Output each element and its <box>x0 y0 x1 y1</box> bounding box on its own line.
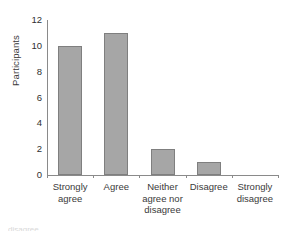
clipped-caption: disagree <box>8 225 276 231</box>
x-axis-line <box>47 175 278 176</box>
bar[interactable] <box>58 46 82 175</box>
x-tick-mark <box>278 175 279 178</box>
y-tick-label: 10 <box>31 41 42 51</box>
y-axis-line <box>47 20 48 175</box>
x-tick-mark <box>186 175 187 178</box>
y-axis-title: Participants <box>10 6 21 116</box>
bar[interactable] <box>197 162 221 175</box>
bar-chart-figure: Participants 024681012 Strongly agreeAgr… <box>0 0 284 231</box>
y-tick-label: 8 <box>37 67 42 77</box>
y-tick-label: 2 <box>37 144 42 154</box>
x-tick-mark <box>93 175 94 178</box>
y-tick-label: 4 <box>37 119 42 129</box>
bar[interactable] <box>151 149 175 175</box>
x-tick-mark <box>232 175 233 178</box>
y-tick-label: 12 <box>31 15 42 25</box>
bar[interactable] <box>104 33 128 175</box>
x-axis-category-label: Strongly disagree <box>226 181 284 204</box>
plot-area: 024681012 <box>47 20 278 175</box>
y-tick-label: 6 <box>37 93 42 103</box>
x-tick-mark <box>139 175 140 178</box>
x-tick-mark <box>47 175 48 178</box>
y-tick-label: 0 <box>37 170 42 180</box>
